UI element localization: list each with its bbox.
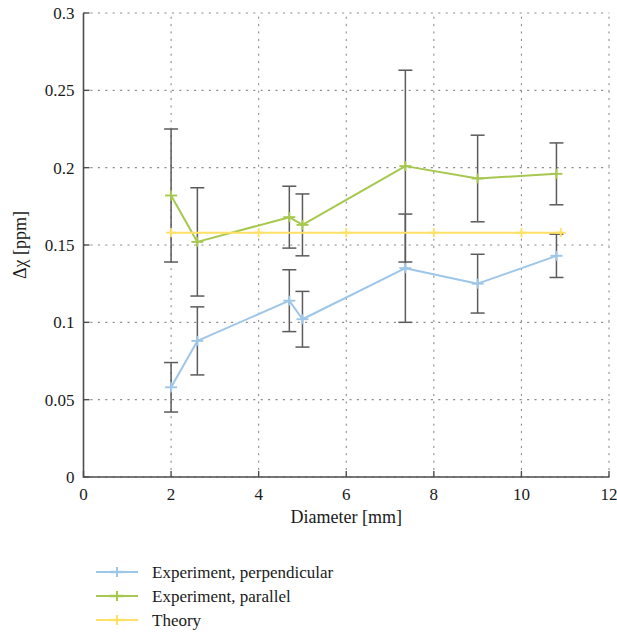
x-tick-label: 2 xyxy=(167,485,176,504)
y-tick-label: 0.3 xyxy=(53,4,74,23)
legend-swatch-icon xyxy=(96,591,138,601)
data-point-marker xyxy=(165,191,177,201)
data-point-marker xyxy=(550,251,562,261)
legend-item-1[interactable]: Experiment, parallel xyxy=(96,587,291,606)
data-point-marker xyxy=(399,263,411,273)
chart-figure: 00.050.10.150.20.250.3024681012 Diameter… xyxy=(0,0,617,638)
theory-marker xyxy=(254,228,264,237)
series-line-1 xyxy=(171,166,556,242)
x-tick-label: 10 xyxy=(513,485,530,504)
axis-spine xyxy=(84,13,610,477)
legend-label: Theory xyxy=(152,611,202,630)
theory-marker xyxy=(556,228,566,237)
y-tick-label: 0.05 xyxy=(45,391,75,410)
data-point-marker xyxy=(283,296,295,306)
y-axis-title: Δχ [ppm] xyxy=(10,211,30,279)
legend-item-2[interactable]: Theory xyxy=(96,611,202,630)
y-tick-label: 0.2 xyxy=(53,159,74,178)
x-tick-label: 12 xyxy=(601,485,617,504)
gridlines xyxy=(84,13,610,477)
data-point-marker xyxy=(472,173,484,183)
axes-lines xyxy=(84,13,610,477)
delta-chi-vs-diameter-chart: 00.050.10.150.20.250.3024681012 Diameter… xyxy=(0,0,617,638)
y-tick-label: 0 xyxy=(66,468,75,487)
legend-label: Experiment, parallel xyxy=(152,587,291,606)
y-tick-label: 0.25 xyxy=(45,81,75,100)
legend-swatch-icon xyxy=(96,567,138,577)
data-point-marker xyxy=(472,279,484,289)
legend-swatch-icon xyxy=(96,615,138,625)
error-bars xyxy=(164,70,563,412)
tick-labels: 00.050.10.150.20.250.3024681012 xyxy=(45,4,617,504)
series-line-0 xyxy=(171,256,556,387)
x-tick-label: 4 xyxy=(254,485,263,504)
x-axis-title: Diameter [mm] xyxy=(291,507,402,527)
theory-marker xyxy=(341,228,351,237)
legend-label: Experiment, perpendicular xyxy=(152,563,334,582)
y-tick-label: 0.15 xyxy=(45,236,75,255)
x-tick-label: 6 xyxy=(342,485,351,504)
data-point-marker xyxy=(191,336,203,346)
tickmarks xyxy=(84,13,610,477)
data-point-marker xyxy=(550,169,562,179)
theory-marker xyxy=(429,228,439,237)
theory-marker xyxy=(516,228,526,237)
legend-item-0[interactable]: Experiment, perpendicular xyxy=(96,563,334,582)
x-tick-label: 0 xyxy=(79,485,88,504)
data-point-marker xyxy=(165,382,177,392)
data-series xyxy=(165,161,566,392)
theory-marker xyxy=(166,228,176,237)
y-tick-label: 0.1 xyxy=(53,313,74,332)
x-tick-label: 8 xyxy=(430,485,439,504)
chart-legend: Experiment, perpendicularExperiment, par… xyxy=(96,563,334,630)
